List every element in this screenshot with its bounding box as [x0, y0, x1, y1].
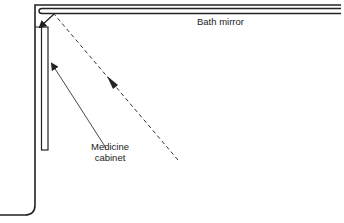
- cabinet-leader-arrow: [52, 64, 106, 148]
- medicine-cabinet-label-line1: Medicine: [84, 141, 136, 152]
- bath-mirror-label: Bath mirror: [197, 16, 244, 27]
- diagram-graphics: [0, 0, 344, 223]
- bath-mirror: [39, 9, 341, 14]
- sightline-arrowhead-icon: [107, 76, 118, 89]
- sightline-dashed-arrow: [54, 14, 178, 160]
- reflected-ray-arrow: [40, 14, 54, 27]
- mirror-diagram: Bath mirror Medicine cabinet: [0, 0, 344, 223]
- medicine-cabinet: [35, 27, 48, 150]
- medicine-cabinet-label-line2: cabinet: [84, 152, 136, 163]
- medicine-cabinet-label: Medicine cabinet: [84, 141, 136, 163]
- wall-outline: [0, 5, 341, 215]
